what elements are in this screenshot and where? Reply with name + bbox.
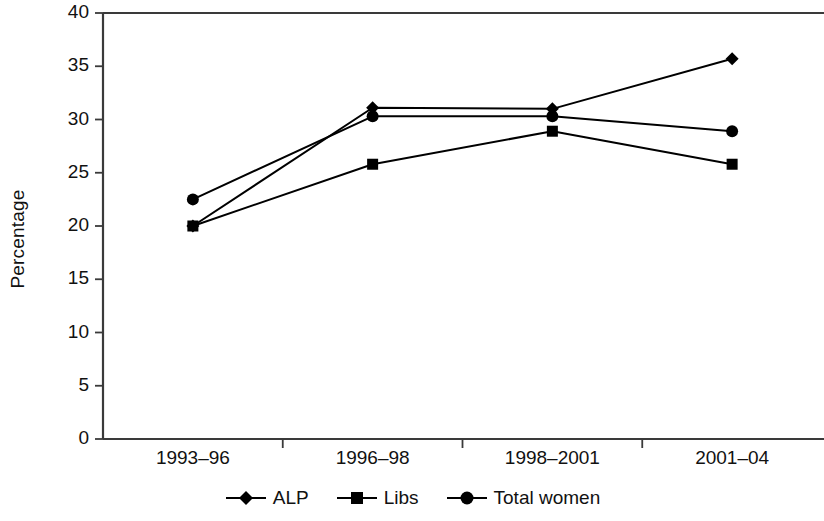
square-marker-icon (335, 489, 379, 507)
legend-item-alp: ALP (224, 487, 309, 509)
diamond-marker-icon (224, 489, 268, 507)
y-axis-tick-label: 15 (27, 267, 89, 289)
y-axis-tick-label: 20 (27, 214, 89, 236)
line-chart: Percentage 0510152025303540 1993–961996–… (0, 0, 824, 521)
series-marker-total-women (187, 193, 199, 205)
x-axis-tick-label: 1998–2001 (462, 447, 642, 469)
y-axis-tick-label: 5 (27, 374, 89, 396)
series-marker-libs (547, 126, 558, 137)
series-marker-total-women (726, 125, 738, 137)
x-axis-tick-label: 1996–98 (283, 447, 463, 469)
y-axis-tick-label: 10 (27, 321, 89, 343)
y-axis-tick-label: 25 (27, 161, 89, 183)
plot-area (0, 0, 824, 521)
series-marker-libs (367, 159, 378, 170)
legend-item-total-women: Total women (445, 487, 601, 509)
series-line-total-women (193, 116, 732, 199)
x-axis-tick-label: 2001–04 (642, 447, 822, 469)
y-axis-tick-label: 40 (27, 1, 89, 23)
series-marker-alp (726, 52, 739, 65)
series-line-libs (193, 131, 732, 226)
x-axis-tick-label: 1993–96 (103, 447, 283, 469)
y-axis-tick-label: 35 (27, 54, 89, 76)
legend-label-total-women: Total women (494, 487, 601, 509)
y-axis-tick-label: 0 (27, 427, 89, 449)
chart-legend: ALP Libs Total women (0, 487, 824, 509)
series-line-alp (193, 59, 732, 226)
y-axis-tick-label: 30 (27, 108, 89, 130)
series-marker-libs (727, 159, 738, 170)
series-marker-total-women (367, 110, 379, 122)
legend-item-libs: Libs (335, 487, 419, 509)
legend-label-alp: ALP (273, 487, 309, 509)
y-axis-title: Percentage (7, 159, 29, 319)
series-marker-libs (187, 221, 198, 232)
legend-label-libs: Libs (384, 487, 419, 509)
circle-marker-icon (445, 489, 489, 507)
series-marker-total-women (546, 110, 558, 122)
